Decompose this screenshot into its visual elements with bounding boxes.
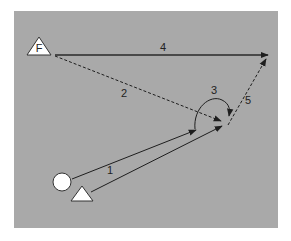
flag-label: F (36, 42, 43, 54)
start-circle-node (53, 173, 71, 191)
edge-label-2: 2 (121, 87, 127, 99)
edge-label-3: 3 (211, 84, 217, 96)
diagram-panel (14, 11, 278, 228)
edge-label-5: 5 (245, 94, 251, 106)
edge-label-4: 4 (160, 41, 166, 53)
edge-label-1: 1 (107, 164, 113, 176)
vector-diagram: F 1 2 3 4 5 (0, 0, 291, 241)
